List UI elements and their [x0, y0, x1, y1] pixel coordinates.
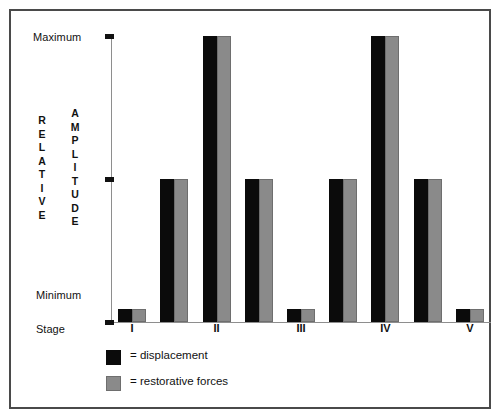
vertical-letter: I: [68, 161, 82, 175]
bar-restorative-forces: [132, 309, 146, 322]
vertical-letter: U: [68, 188, 82, 202]
vertical-letter: I: [35, 182, 49, 196]
vertical-letter: L: [35, 141, 49, 155]
vertical-letter: D: [68, 202, 82, 216]
x-axis-tick-label-I: I: [112, 322, 152, 334]
bar-restorative-forces: [385, 36, 399, 322]
x-axis-title: Stage: [36, 323, 65, 335]
vertical-letter: A: [68, 107, 82, 121]
vertical-letter: E: [35, 128, 49, 142]
vertical-letter: A: [35, 155, 49, 169]
vertical-letter: T: [68, 175, 82, 189]
vertical-letter: E: [35, 209, 49, 223]
bar-restorative-forces: [343, 179, 357, 322]
x-axis-tick-label-V: V: [450, 322, 490, 334]
bar-restorative-forces: [259, 179, 273, 322]
vertical-letter: M: [68, 121, 82, 135]
legend-label: = restorative forces: [130, 375, 228, 387]
bar-displacement: [456, 309, 470, 322]
plot-area: [106, 26, 496, 316]
bar-restorative-forces: [301, 309, 315, 322]
bar-displacement: [414, 179, 428, 322]
bar-series-container: [111, 26, 491, 323]
bar-restorative-forces: [174, 179, 188, 322]
bar-displacement: [371, 36, 385, 322]
x-axis-tick-label-III: III: [281, 322, 321, 334]
legend-swatch-gray: [106, 376, 121, 391]
bar-displacement: [287, 309, 301, 322]
vertical-letter: V: [35, 195, 49, 209]
y-axis-title-relative: RELATIVE: [35, 114, 49, 222]
legend-swatch-black: [106, 350, 121, 365]
legend-label: = displacement: [130, 349, 208, 361]
y-axis-title-amplitude: AMPLITUDE: [68, 107, 82, 229]
vertical-letter: R: [35, 114, 49, 128]
bar-restorative-forces: [428, 179, 442, 322]
bar-displacement: [160, 179, 174, 322]
x-axis-tick-label-II: II: [197, 322, 237, 334]
bar-displacement: [245, 179, 259, 322]
bar-restorative-forces: [217, 36, 231, 322]
bar-displacement: [118, 309, 132, 322]
y-axis-min-label: Minimum: [36, 289, 81, 301]
vertical-letter: E: [68, 215, 82, 229]
bar-displacement: [329, 179, 343, 322]
y-axis-max-label: Maximum: [33, 31, 81, 43]
x-axis-tick-label-IV: IV: [365, 322, 405, 334]
vertical-letter: P: [68, 134, 82, 148]
bar-restorative-forces: [470, 309, 484, 322]
figure-panel: Maximum Minimum RELATIVE AMPLITUDE Stage…: [9, 9, 491, 409]
vertical-letter: L: [68, 148, 82, 162]
vertical-letter: T: [35, 168, 49, 182]
bar-displacement: [203, 36, 217, 322]
